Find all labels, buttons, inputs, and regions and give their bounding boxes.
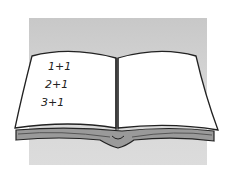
equation-line-2: 2+1 — [45, 78, 68, 91]
equation-line-1: 1+1 — [48, 60, 71, 73]
open-book-icon — [0, 0, 240, 175]
equation-line-3: 3+1 — [41, 96, 64, 109]
